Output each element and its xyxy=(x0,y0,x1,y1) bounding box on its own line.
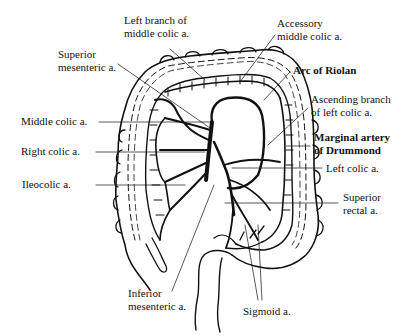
inferior-mesenteric-artery xyxy=(214,142,234,215)
label-inferior-mesenteric: Inferior mesenteric a. xyxy=(128,287,186,313)
rectum xyxy=(195,250,232,332)
label-sigmoid: Sigmoid a. xyxy=(243,305,291,318)
label-ascending-branch-left-colic: Ascending branch of left colic a. xyxy=(311,93,391,119)
label-left-colic: Left colic a. xyxy=(326,162,379,175)
label-ileocolic: Ileocolic a. xyxy=(22,178,71,191)
label-accessory-middle-colic: Accessory middle colic a. xyxy=(277,17,342,43)
label-superior-mesenteric: Superior mesenteric a. xyxy=(58,48,116,74)
label-left-branch-middle-colic: Left branch of middle colic a. xyxy=(124,14,189,40)
label-superior-rectal: Superior rectal a. xyxy=(343,191,381,217)
appendix xyxy=(146,238,167,272)
label-marginal-artery-drummond: Marginal artery of Drummond xyxy=(314,131,390,157)
label-middle-colic: Middle colic a. xyxy=(21,115,87,128)
colon-arterial-diagram: Left branch of middle colic a. Accessory… xyxy=(0,0,416,336)
label-right-colic: Right colic a. xyxy=(21,145,80,158)
label-arc-of-riolan: Arc of Riolan xyxy=(293,64,356,77)
